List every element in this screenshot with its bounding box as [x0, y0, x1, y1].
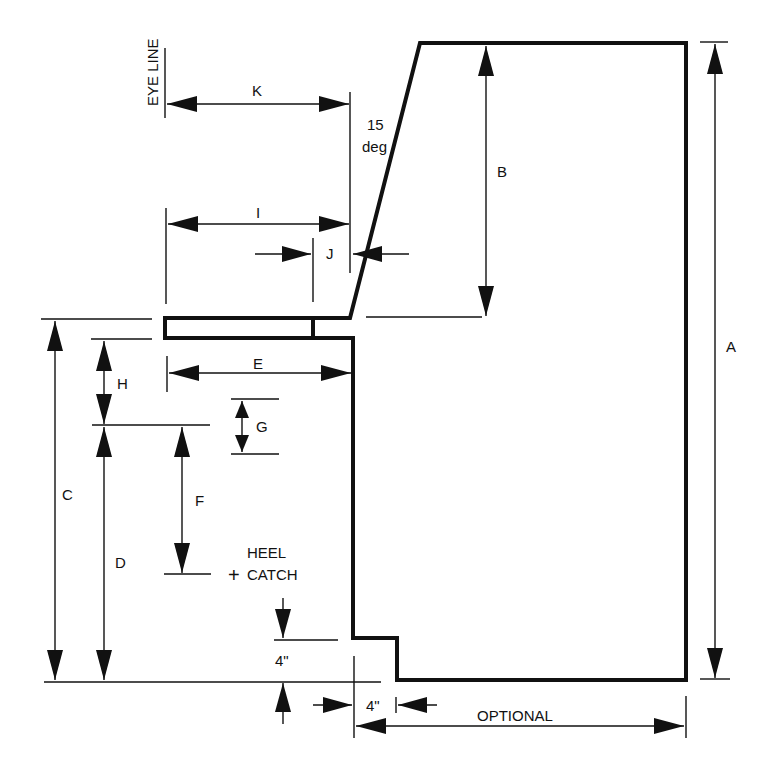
angle-value: 15: [367, 116, 384, 133]
cabinet-outline: [165, 43, 686, 680]
eye-line-label: EYE LINE: [144, 38, 161, 106]
dimension-d: D: [92, 425, 210, 680]
eye-line-marker: EYE LINE: [144, 38, 165, 118]
label-a: A: [726, 338, 736, 355]
dimension-j: J: [255, 238, 409, 302]
catch-label: CATCH: [247, 566, 298, 583]
label-d: D: [115, 554, 126, 571]
cabinet-diagram: EYE LINE K 15 deg B A I: [0, 0, 779, 782]
angle-unit: deg: [362, 138, 387, 155]
label-f: F: [195, 492, 204, 509]
label-c: C: [62, 486, 73, 503]
dimension-k: K: [167, 82, 350, 273]
label-toe-height: 4": [275, 652, 289, 669]
label-j: J: [326, 245, 334, 262]
label-optional: OPTIONAL: [477, 707, 553, 724]
label-b: B: [497, 163, 507, 180]
plus-marker: +: [228, 564, 240, 586]
heel-label: HEEL: [247, 544, 286, 561]
label-g: G: [256, 418, 268, 435]
label-k: K: [252, 82, 262, 99]
dimension-g: G: [231, 399, 279, 454]
dimension-optional: OPTIONAL: [356, 696, 686, 738]
dimension-h: H: [91, 339, 152, 424]
dimension-e: E: [167, 355, 351, 392]
label-i: I: [256, 204, 260, 221]
label-toe-depth: 4": [366, 697, 380, 714]
label-h: H: [117, 375, 128, 392]
dimension-b: B: [366, 46, 507, 317]
dimension-a: A: [700, 42, 736, 679]
dimension-f: F: [164, 427, 211, 574]
dimension-c: C: [41, 319, 152, 680]
label-e: E: [253, 355, 263, 372]
